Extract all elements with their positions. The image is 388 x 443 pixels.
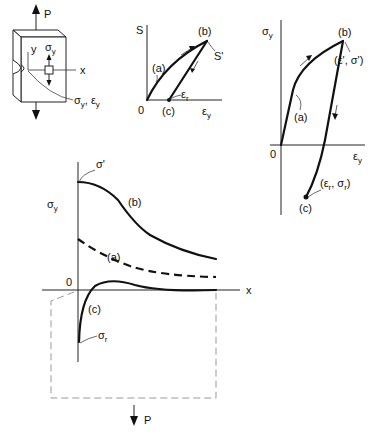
stress-distribution-plot: x 0 σy σ' (b) (a) (c) σr P <box>42 158 252 426</box>
specimen-y-label: y <box>31 43 37 55</box>
arrowhead-up-icon <box>32 4 40 14</box>
unloading-direction-icon <box>332 113 338 120</box>
label-a: (a) <box>152 62 165 74</box>
label-c: (c) <box>299 202 312 214</box>
label-c: (c) <box>162 105 175 117</box>
origin-label: 0 <box>66 276 72 288</box>
origin-label: 0 <box>138 104 144 116</box>
residual-strain-label: εr <box>181 88 189 103</box>
label-a: (a) <box>294 111 307 123</box>
specimen-outline <box>51 290 216 398</box>
notch-stress-figure: P y x σy σy, εy S 0 εy <box>0 0 388 443</box>
x-axis-label: x <box>246 284 252 296</box>
stress-element-icon <box>45 66 53 74</box>
specimen-top-face <box>13 30 66 37</box>
origin-label: 0 <box>270 148 276 160</box>
load-label-bottom: P <box>144 414 151 426</box>
arrowhead-down-icon <box>130 416 138 426</box>
nominal-stress-strain-plot: S 0 εy (a) (b) S' (c) εr <box>136 24 223 120</box>
unloading-direction-icon <box>190 68 195 73</box>
arrowhead-down-icon <box>32 110 40 120</box>
notched-specimen: P y x σy σy, εy <box>13 4 100 120</box>
curve-b-max-load <box>78 182 216 259</box>
label-b: (b) <box>338 26 351 38</box>
epsilon-axis-label: εy <box>353 150 362 165</box>
point-c-dot <box>304 195 309 200</box>
s-axis-label: S <box>136 24 143 36</box>
sigma-axis-label: σy <box>262 25 273 40</box>
notch-callout: σy, εy <box>74 94 100 109</box>
label-b: (b) <box>198 25 211 37</box>
residual-sigma-label: σr <box>98 329 108 344</box>
unloading-line <box>169 41 207 100</box>
peak-s-label: S' <box>214 50 223 62</box>
curve-a-label: (a) <box>107 251 120 263</box>
curve-b-label: (b) <box>128 196 141 208</box>
curve-a-elastic <box>78 239 216 277</box>
load-label-top: P <box>44 8 51 20</box>
curve-c-label: (c) <box>88 303 101 315</box>
strain-axis-label: εy <box>202 105 211 120</box>
residual-coords-label: (εr, σr) <box>320 177 351 192</box>
local-stress-strain-plot: σy 0 εy (a) (b) (ε', σ') (c) (εr, σr) <box>262 20 365 215</box>
specimen-x-label: x <box>80 64 86 76</box>
peak-sigma-label: σ' <box>96 158 105 170</box>
stress-axis-label: σy <box>47 198 58 213</box>
peak-coords-label: (ε', σ') <box>334 54 363 66</box>
